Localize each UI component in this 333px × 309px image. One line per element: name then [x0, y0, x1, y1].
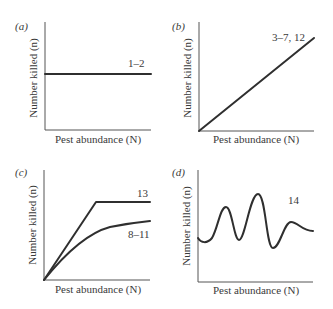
- panel-tag-a: (a): [15, 20, 28, 33]
- series-label-13: 13: [137, 187, 149, 199]
- x-axis-label-b: Pest abundance (N): [213, 133, 299, 146]
- y-axis-label-b: Number killed (n): [181, 38, 194, 118]
- x-axis-label-a: Pest abundance (N): [55, 133, 141, 146]
- x-axis-label-c: Pest abundance (N): [55, 283, 141, 296]
- x-axis-label-d: Pest abundance (N): [213, 284, 299, 297]
- panel-tag-d: (d): [172, 166, 185, 179]
- series-label-3-7-12: 3–7, 12: [272, 31, 305, 43]
- series-label-1-2: 1–2: [128, 57, 145, 69]
- series-label-14: 14: [288, 194, 300, 206]
- panel-d: (d) 14 Number killed (n) Pest abundance …: [172, 166, 313, 297]
- panel-tag-b: (b): [172, 20, 185, 33]
- figure: (a) 1–2 Number killed (n) Pest abundance…: [0, 0, 333, 309]
- panel-b: (b) 3–7, 12 Number killed (n) Pest abund…: [172, 20, 314, 146]
- series-line-13: [44, 202, 150, 280]
- series-label-8-11: 8–11: [128, 228, 150, 240]
- y-axis-label-a: Number killed (n): [27, 38, 40, 118]
- y-axis-label-d: Number killed (n): [180, 186, 193, 266]
- series-line-b: [199, 38, 314, 131]
- panel-c: (c) 13 8–11 Number killed (n) Pest abund…: [15, 166, 150, 296]
- y-axis-label-c: Number killed (n): [26, 185, 39, 265]
- panel-a: (a) 1–2 Number killed (n) Pest abundance…: [15, 20, 151, 146]
- panel-tag-c: (c): [15, 166, 28, 179]
